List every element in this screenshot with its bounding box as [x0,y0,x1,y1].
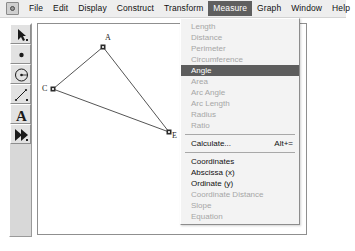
point-label-c: C [42,85,47,93]
menu-item-label: Circumference [191,54,243,65]
tool-palette: A [9,23,32,237]
text-tool[interactable]: A [10,104,31,124]
menu-item-label: Slope [191,200,211,211]
menu-item-equation[interactable]: Equation [181,211,299,222]
straightedge-tool-expand-icon[interactable] [26,99,28,101]
menu-item-area[interactable]: Area [181,76,299,87]
svg-text:A: A [16,108,27,124]
menu-item-angle[interactable]: Angle [181,65,299,76]
menu-item-coordinates[interactable]: Coordinates [181,156,299,167]
point-label-a: A [105,34,111,42]
menu-graph[interactable]: Graph [252,1,286,16]
menu-item-label: Ratio [191,120,210,131]
point-label-e: E [172,132,177,140]
app-logo-icon [6,2,19,15]
menu-window[interactable]: Window [286,1,327,16]
menu-item-radius[interactable]: Radius [181,109,299,120]
menu-item-slope[interactable]: Slope [181,200,299,211]
menu-item-accelerator: Alt+= [274,138,293,149]
arrow-tool-expand-icon[interactable] [26,39,28,41]
menu-item-label: Distance [191,32,222,43]
menu-item-label: Calculate... [191,138,231,149]
menu-item-abscissa-x[interactable]: Abscissa (x) [181,167,299,178]
menu-bar: File Edit Display Construct Transform Me… [0,0,346,18]
menu-transform[interactable]: Transform [159,1,208,16]
menu-item-length[interactable]: Length [181,21,299,32]
menu-item-label: Abscissa (x) [191,167,235,178]
menu-item-perimeter[interactable]: Perimeter [181,43,299,54]
point-tool[interactable] [10,44,31,64]
menu-item-label: Arc Angle [191,87,225,98]
menu-construct[interactable]: Construct [112,1,159,16]
menu-item-arc-angle[interactable]: Arc Angle [181,87,299,98]
menu-item-ordinate-y[interactable]: Ordinate (y) [181,178,299,189]
compass-circle-tool[interactable] [10,64,31,84]
menu-item-label: Coordinate Distance [191,189,263,200]
custom-tool[interactable] [10,124,31,144]
menu-item-label: Coordinates [191,156,234,167]
menu-item-label: Radius [191,109,216,120]
menu-display[interactable]: Display [73,1,112,16]
straightedge-tool[interactable] [10,84,31,104]
menu-item-coordinate-distance[interactable]: Coordinate Distance [181,189,299,200]
menu-item-label: Arc Length [191,98,230,109]
menu-item-label: Angle [191,65,211,76]
menu-item-label: Length [191,21,215,32]
menu-separator-1 [185,134,295,135]
custom-tool-expand-icon[interactable] [26,139,28,141]
segment-c-e [53,89,169,132]
measure-dropdown-menu: Length Distance Perimeter Circumference … [180,18,300,225]
menu-item-label: Area [191,76,208,87]
menu-separator-2 [185,152,295,153]
menu-item-arc-length[interactable]: Arc Length [181,98,299,109]
menu-measure[interactable]: Measure [208,1,252,16]
menu-item-label: Perimeter [191,43,226,54]
menu-help[interactable]: Help [327,1,355,16]
menu-item-ratio[interactable]: Ratio [181,120,299,131]
menu-edit[interactable]: Edit [48,1,73,16]
menu-item-calculate[interactable]: Calculate... Alt+= [181,138,299,149]
menu-item-label: Ordinate (y) [191,178,233,189]
menu-item-circumference[interactable]: Circumference [181,54,299,65]
menu-item-distance[interactable]: Distance [181,32,299,43]
menu-item-label: Equation [191,211,223,222]
segment-a-c [53,47,103,89]
arrow-select-tool[interactable] [10,24,31,44]
menu-file[interactable]: File [24,1,48,16]
